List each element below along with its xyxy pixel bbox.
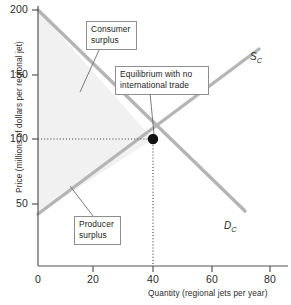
y-tick-label-200: 200 — [0, 3, 28, 15]
x-tick-label-60: 60 — [202, 273, 222, 285]
supply-curve-label-subscript: C — [257, 56, 262, 65]
producer-callout-leader — [70, 186, 93, 216]
y-tick-label-50: 50 — [0, 197, 28, 209]
supply-curve-label-letter: S — [250, 51, 257, 62]
consumer-surplus-callout-line1: Consumer — [91, 24, 132, 35]
x-tick-label-80: 80 — [260, 273, 280, 285]
x-tick-label-0: 0 — [28, 273, 48, 285]
demand-curve-label: DC — [224, 220, 236, 234]
x-tick-label-20: 20 — [83, 273, 103, 285]
supply-curve-label: SC — [250, 51, 262, 65]
equilibrium-point-marker — [148, 134, 158, 144]
x-tick-label-40: 40 — [143, 273, 163, 285]
producer-surplus-callout-line2: surplus — [79, 230, 116, 241]
producer-surplus-callout-line1: Producer — [79, 219, 116, 230]
consumer-surplus-callout-line2: surplus — [91, 35, 132, 46]
y-axis-ticks — [32, 10, 38, 204]
producer-surplus-callout: Producer surplus — [74, 216, 121, 245]
y-axis-title: Price (millions of dollars per regional … — [14, 53, 24, 193]
equilibrium-callout: Equilibrium with no international trade — [115, 66, 209, 95]
x-axis-title: Quantity (regional jets per year) — [148, 288, 268, 298]
consumer-surplus-callout: Consumer surplus — [86, 21, 137, 50]
equilibrium-callout-line1: Equilibrium with no — [120, 69, 204, 80]
chart-plot-area — [0, 0, 291, 305]
equilibrium-callout-line2: international trade — [120, 80, 204, 91]
chart-figure: 200 150 100 50 0 20 40 60 80 Price (mill… — [0, 0, 291, 305]
x-axis-ticks — [93, 266, 270, 272]
demand-curve-label-subscript: C — [231, 225, 236, 234]
